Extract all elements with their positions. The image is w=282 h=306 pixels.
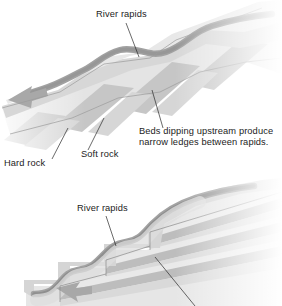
label-soft-rock: Soft rock <box>81 149 119 159</box>
label-beds-note-line1: Beds dipping upstream produce <box>139 126 273 136</box>
lower-diagram <box>0 176 282 306</box>
label-upper-river-rapids: River rapids <box>96 9 147 19</box>
label-beds-note-line2: narrow ledges between rapids. <box>139 137 269 147</box>
label-lower-river-rapids: River rapids <box>77 203 128 213</box>
label-hard-rock: Hard rock <box>4 158 45 168</box>
rapids-figure: River rapids Hard rock Soft rock Beds di… <box>0 0 282 306</box>
